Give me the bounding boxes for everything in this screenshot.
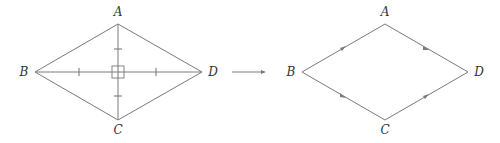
arrow-head-icon <box>261 70 266 74</box>
right-rhombus: A B C D <box>286 5 485 137</box>
parallel-arrow-cd <box>423 94 429 99</box>
transform-arrow <box>232 70 266 74</box>
vertex-label-b-right: B <box>286 65 296 79</box>
vertex-label-c-right: C <box>380 123 389 137</box>
parallel-arrow-ba <box>340 46 346 51</box>
right-rhombus-outline <box>302 24 468 120</box>
vertex-label-a-left: A <box>113 5 123 19</box>
vertex-label-d-right: D <box>473 65 484 79</box>
vertex-label-c-left: C <box>113 123 122 137</box>
diagram-canvas: A B C D A B C D <box>0 0 500 143</box>
vertex-label-d-left: D <box>207 65 218 79</box>
vertex-label-b-left: B <box>19 65 29 79</box>
vertex-label-a-right: A <box>380 5 390 19</box>
left-rhombus: A B C D <box>19 5 219 137</box>
